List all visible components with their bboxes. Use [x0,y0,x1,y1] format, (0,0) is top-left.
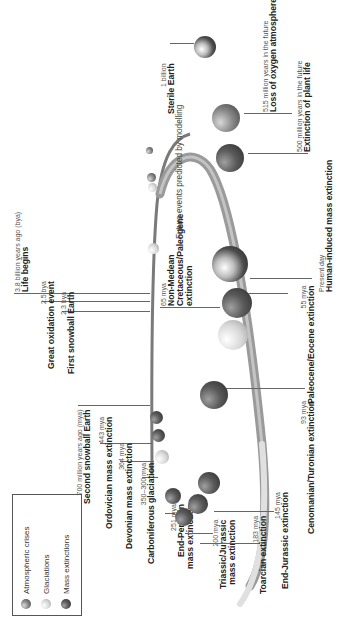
leader-line [14,293,150,294]
event-sterile-earth: 1 billion Sterile Earth [160,63,176,114]
leader-line [248,293,288,294]
legend-label: Atmospheric crises [22,526,31,594]
devonian-sphere-icon [152,429,165,442]
toarcian-sphere-icon [188,494,208,514]
leader-line [250,278,312,279]
great-oxidation-sphere-icon [147,173,156,182]
event-triassic: 200 mya Triassic/Jurassic mass extinctio… [212,520,237,589]
leader-line [200,543,260,544]
event-second-snowball: 700 million years ago (mya) Second snowb… [76,409,92,504]
event-carboniferous: 350–300 mya Carboniferous glaciation [140,463,156,564]
atmospheric-crisis-sphere-icon [21,599,31,609]
future-events-note: Future events predicted by modelling [175,105,184,239]
leader-line [225,388,305,389]
carboniferous-sphere-icon [155,450,169,464]
event-life-begins: 3.8 billion years ago (bya) Life begins [14,212,30,292]
second-snowball-sphere-icon [148,243,159,254]
life-begins-sphere-icon [146,147,153,154]
event-oxygen-loss: 515 million years in the future Loss of … [262,0,278,112]
end-jurassic-sphere-icon [198,472,220,494]
leader-line [42,301,150,302]
event-toarcian: 183 mya Toarcian extinction [252,516,268,594]
kpg-glaciation-sphere-icon [218,320,248,350]
legend: Atmospheric crises Glaciations Mass exti… [12,494,82,616]
event-petm: 55 mya Paleocene/Eocene extinction [300,286,316,404]
legend-label: Mass extinctions [62,535,71,594]
event-end-jurassic: 145 mya End-Jurassic extinction [274,492,290,589]
event-great-oxidation: 2.5 bya Great oxidation event [40,281,56,369]
event-devonian: 364 mya Devonian mass extinction [118,443,134,549]
event-plant-life: 500 million years in the future Extincti… [296,61,312,152]
mass-extinction-sphere-icon [61,599,71,609]
event-cenomanian: 93 mya Cenomanian/Turonian extinction [300,401,316,534]
ordovician-sphere-icon [150,411,163,424]
leader-line [214,511,274,512]
legend-label: Glaciations [42,554,51,594]
first-snowball-sphere-icon [148,183,157,192]
cenomanian-sphere-icon [200,381,228,409]
leader-line [160,307,220,308]
sterile-earth-globe-icon [194,36,216,58]
oxygen-loss-sphere-icon [212,104,240,132]
event-present-day: Present day Human-induced mass extinctio… [318,160,334,292]
event-first-snowball: 2.3 bya First snowball Earth [60,292,76,374]
plant-life-sphere-icon [216,144,244,172]
leader-line [78,405,150,406]
leader-line [244,113,292,114]
leader-line [185,533,213,534]
end-permian-sphere-icon [165,488,181,504]
leader-line [248,153,308,154]
glaciation-sphere-icon [41,599,51,609]
legend-item-atmospheric: Atmospheric crises [21,526,31,609]
timeline-figure: Atmospheric crises Glaciations Mass exti… [0,0,353,624]
event-ordovician: 443 mya Ordovician mass extinction [98,417,114,529]
leader-line [170,43,194,44]
legend-item-glaciation: Glaciations [41,554,51,609]
legend-item-extinction: Mass extinctions [61,535,71,609]
present-earth-globe-icon [212,246,248,282]
